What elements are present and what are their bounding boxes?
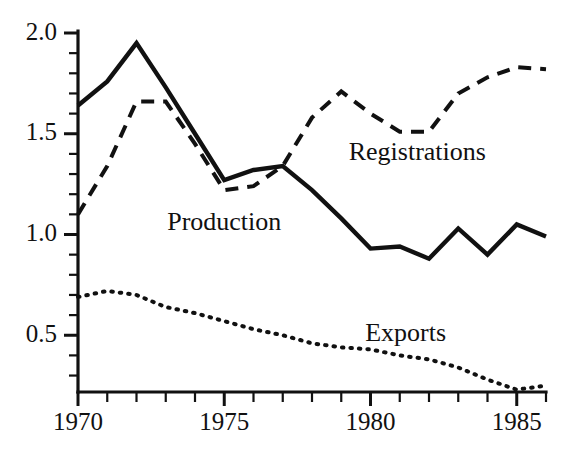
x-tick-label: 1980	[346, 408, 396, 435]
x-axis-ticks	[78, 392, 546, 406]
series-line-exports	[78, 291, 546, 390]
x-axis-tick-labels: 1970197519801985	[53, 408, 542, 435]
y-axis-tick-labels: 2.01.51.00.5	[26, 18, 57, 347]
series-label-exports: Exports	[365, 318, 446, 347]
x-tick-label: 1975	[199, 408, 249, 435]
y-tick-label: 1.0	[26, 219, 57, 246]
line-chart: 2.01.51.00.5 1970197519801985 Production…	[0, 0, 575, 459]
chart-container: 2.01.51.00.5 1970197519801985 Production…	[0, 0, 575, 459]
y-tick-label: 1.5	[26, 118, 57, 145]
x-tick-label: 1970	[53, 408, 103, 435]
x-tick-label: 1985	[492, 408, 542, 435]
y-tick-label: 0.5	[26, 320, 57, 347]
y-axis-ticks	[64, 33, 78, 376]
y-tick-label: 2.0	[26, 18, 57, 45]
chart-axes	[78, 31, 546, 392]
series-label-registrations: Registrations	[349, 137, 486, 166]
chart-series	[78, 43, 546, 390]
series-label-production: Production	[167, 207, 281, 236]
